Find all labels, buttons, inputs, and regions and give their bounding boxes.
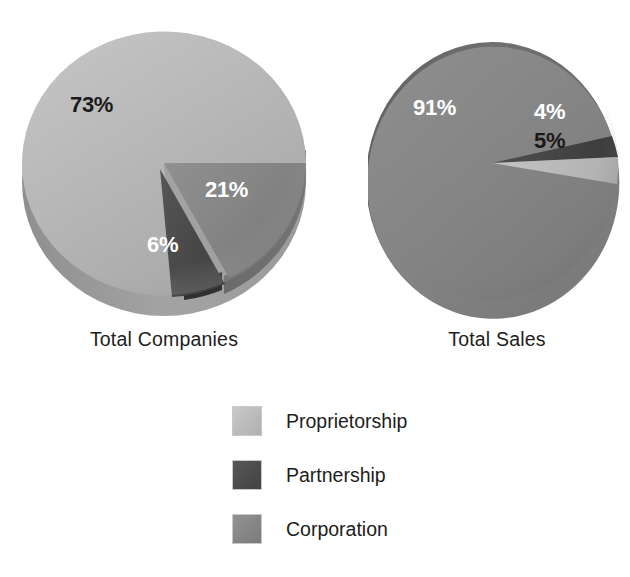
- legend-item-corporation: Corporation: [232, 510, 532, 564]
- caption-total-sales: Total Sales: [368, 328, 626, 351]
- legend-label-corporation: Corporation: [286, 515, 388, 543]
- legend-item-proprietorship: Proprietorship: [232, 402, 532, 456]
- swatch-partnership-icon: [232, 460, 262, 490]
- legend-item-partnership: Partnership: [232, 456, 532, 510]
- charts-row: 73% 21% 6% Total Companies: [0, 0, 630, 372]
- figure-root: 73% 21% 6% Total Companies: [0, 0, 630, 577]
- chart-legend: Proprietorship Partnership Corporation: [232, 402, 532, 564]
- legend-label-partnership: Partnership: [286, 461, 386, 489]
- pie-rim-shading-sales: [368, 27, 618, 299]
- legend-label-proprietorship: Proprietorship: [286, 407, 407, 435]
- swatch-corporation-icon: [232, 514, 262, 544]
- swatch-proprietorship-icon: [232, 406, 262, 436]
- caption-total-companies: Total Companies: [8, 328, 320, 351]
- pie-canvas-companies: [8, 0, 320, 326]
- pie-canvas-sales: [368, 0, 626, 326]
- pie-rim-shading-companies: [22, 31, 306, 295]
